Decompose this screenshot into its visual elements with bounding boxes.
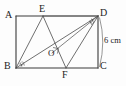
segment-D-to-O — [52, 16, 98, 53]
vertex-label-D: D — [100, 8, 107, 18]
vertex-label-F: F — [62, 70, 68, 80]
segment-BE — [16, 16, 43, 68]
vertex-label-C: C — [100, 61, 107, 71]
segment-EF — [43, 16, 66, 68]
dimension-label-6cm: 6 cm — [104, 36, 121, 45]
geometry-figure: A B C D E F O 6 cm — [0, 0, 126, 86]
vertex-label-B: B — [4, 61, 11, 71]
vertex-label-E: E — [39, 4, 45, 14]
vertex-label-A: A — [5, 10, 12, 20]
point-label-O: O — [48, 49, 55, 58]
segment-DF — [66, 16, 98, 68]
segment-BD — [16, 16, 98, 68]
interior-segments — [16, 16, 98, 68]
